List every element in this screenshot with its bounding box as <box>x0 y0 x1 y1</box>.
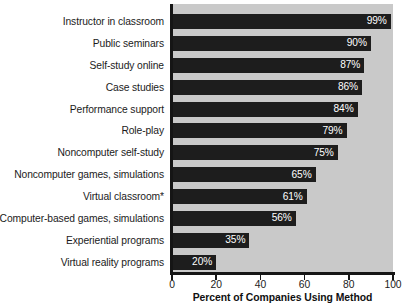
bar-series: 99% 90% 87% 86% 84% <box>172 11 393 274</box>
bar: 90% <box>172 36 371 51</box>
x-axis-tick-label: 40 <box>255 279 266 290</box>
category-label: Performance support <box>0 99 168 121</box>
category-label: Self-study online <box>0 55 168 77</box>
bar-row: 79% <box>172 120 393 142</box>
bar-value-label: 84% <box>334 104 354 114</box>
category-label: Case studies <box>0 77 168 99</box>
bar-value-label: 99% <box>367 16 387 26</box>
bar-row: 84% <box>172 99 393 121</box>
bar-row: 56% <box>172 208 393 230</box>
bar: 61% <box>172 189 307 204</box>
bar-value-label: 56% <box>272 213 292 223</box>
category-label: Role-play <box>0 120 168 142</box>
bar-row: 87% <box>172 55 393 77</box>
x-axis-tick-label: 80 <box>343 279 354 290</box>
bar-value-label: 35% <box>225 235 245 245</box>
bar-value-label: 87% <box>340 60 360 70</box>
bar: 56% <box>172 211 296 226</box>
bar-value-label: 79% <box>322 126 342 136</box>
plot-area: 99% 90% 87% 86% 84% <box>172 4 393 273</box>
bar: 79% <box>172 123 347 138</box>
bar-row: 75% <box>172 142 393 164</box>
bar: 84% <box>172 102 358 117</box>
bar-row: 65% <box>172 164 393 186</box>
bar-value-label: 61% <box>283 192 303 202</box>
x-axis-tick-label: 100 <box>384 279 401 290</box>
category-label: Noncomputer self-study <box>0 142 168 164</box>
bar-row: 20% <box>172 252 393 274</box>
bar: 87% <box>172 58 364 73</box>
x-axis-tick-label: 20 <box>210 279 221 290</box>
bar-value-label: 90% <box>347 38 367 48</box>
bar-value-label: 65% <box>292 170 312 180</box>
category-label: Virtual reality programs <box>0 252 168 274</box>
bar-row: 90% <box>172 33 393 55</box>
category-label: Noncomputer games, simulations <box>0 164 168 186</box>
bar: 35% <box>172 233 249 248</box>
x-axis-title: Percent of Companies Using Method <box>172 292 393 303</box>
bar: 65% <box>172 167 316 182</box>
category-label: Public seminars <box>0 33 168 55</box>
category-label: Experiential programs <box>0 230 168 252</box>
bar: 86% <box>172 80 362 95</box>
bar-chart: Instructor in classroom Public seminars … <box>0 0 404 307</box>
bar-row: 99% <box>172 11 393 33</box>
bar: 75% <box>172 145 338 160</box>
x-axis-tick-label: 60 <box>299 279 310 290</box>
category-label: Computer-based games, simulations <box>0 208 168 230</box>
category-label: Instructor in classroom <box>0 11 168 33</box>
bar-row: 86% <box>172 77 393 99</box>
x-axis-tick-label: 0 <box>169 279 175 290</box>
bar: 99% <box>172 14 391 29</box>
bar-value-label: 20% <box>192 257 212 267</box>
y-axis-line <box>170 4 173 275</box>
x-axis-tick-labels: 020406080100 <box>0 279 404 293</box>
bar-value-label: 75% <box>314 148 334 158</box>
bar-row: 35% <box>172 230 393 252</box>
category-label: Virtual classroom* <box>0 186 168 208</box>
bar-row: 61% <box>172 186 393 208</box>
bar-value-label: 86% <box>338 82 358 92</box>
category-axis-labels: Instructor in classroom Public seminars … <box>0 11 168 274</box>
bar: 20% <box>172 255 216 270</box>
